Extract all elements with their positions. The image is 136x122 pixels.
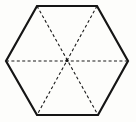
hexagon-figure-canvas [0, 0, 136, 122]
hexagon-diagram [0, 0, 136, 122]
center-point-dot [65, 59, 68, 62]
